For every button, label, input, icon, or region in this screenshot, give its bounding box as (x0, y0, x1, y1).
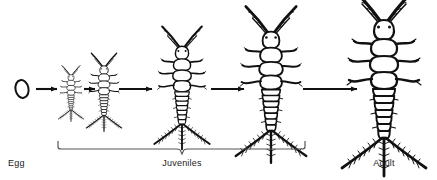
label-juveniles: Juveniles (162, 158, 201, 168)
stage-instar-1 (58, 66, 83, 122)
stage-instar-2 (86, 53, 121, 131)
label-egg: Egg (8, 158, 25, 168)
stage-instar-4 (236, 6, 307, 162)
label-adult: Adult (373, 158, 395, 168)
figure-canvas: Egg Juveniles Adult (0, 0, 437, 180)
stage-egg (14, 79, 30, 99)
life-cycle-illustration (0, 0, 437, 180)
stage-instar-3 (154, 27, 209, 150)
egg-shape (14, 79, 30, 99)
